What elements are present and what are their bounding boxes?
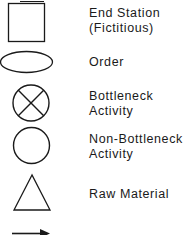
arrow-right-icon (12, 229, 50, 235)
legend-label-end-station: End Station (Fictitious) (89, 6, 160, 36)
label-line: (Fictitious) (89, 21, 160, 36)
label-line: Bottleneck (89, 89, 153, 104)
legend-label-bottleneck-activity: Bottleneck Activity (89, 89, 153, 119)
circle-x-icon (13, 85, 49, 121)
label-line: Order (89, 55, 124, 70)
diagram-legend: End Station (Fictitious) Order Bottlenec… (0, 0, 193, 235)
label-line: Raw Material (89, 187, 169, 202)
legend-label-non-bottleneck-activity: Non-Bottleneck Activity (89, 132, 183, 162)
legend-label-order: Order (89, 55, 124, 70)
circle-icon (14, 128, 50, 164)
ellipse-icon (1, 52, 53, 73)
label-line: End Station (89, 6, 160, 21)
legend-label-material-flow: Material Flow (89, 218, 175, 235)
legend-label-raw-material: Raw Material (89, 187, 169, 202)
label-line: Activity (89, 104, 153, 119)
label-line: Non-Bottleneck (89, 132, 183, 147)
triangle-icon (14, 175, 50, 210)
label-line: Activity (89, 147, 183, 162)
square-icon (9, 4, 45, 42)
